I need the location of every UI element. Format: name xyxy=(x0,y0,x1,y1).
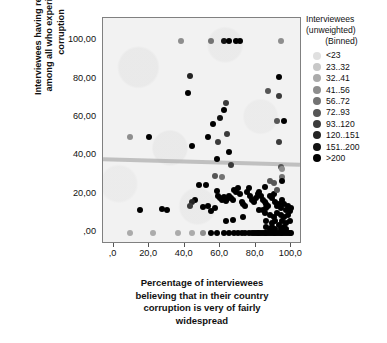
data-point xyxy=(221,107,227,113)
x-tick-label: 60,0 xyxy=(199,249,239,258)
y-tick-label: 100,00 xyxy=(50,35,96,44)
legend-item: 93..120 xyxy=(306,118,387,129)
data-point xyxy=(230,217,236,223)
legend-item-label: 32..41 xyxy=(326,74,350,83)
x-tick-mark xyxy=(113,243,114,247)
data-point xyxy=(189,230,195,236)
x-tick-mark xyxy=(255,243,256,247)
x-tick-mark xyxy=(290,243,291,247)
data-point xyxy=(187,203,193,209)
legend-item-label: <23 xyxy=(326,51,341,60)
data-point xyxy=(150,230,156,236)
legend-item: 72..93 xyxy=(306,107,387,118)
legend-swatch-dot-icon xyxy=(313,143,321,151)
data-point xyxy=(214,230,220,236)
legend-swatch-dot-icon xyxy=(313,52,321,60)
x-tick-label: 20,0 xyxy=(128,249,168,258)
data-point xyxy=(223,218,229,224)
data-point xyxy=(137,207,143,213)
data-point xyxy=(217,115,223,121)
legend-swatch-dot-icon xyxy=(313,120,321,128)
legend-item-label: 56..72 xyxy=(326,97,350,106)
legend-title-line-2: (unweighted) xyxy=(306,25,387,36)
x-tick-label: 40,0 xyxy=(164,249,204,258)
legend-item-label: >200 xyxy=(326,154,345,163)
data-point xyxy=(287,218,293,224)
data-point xyxy=(237,191,243,197)
legend-swatch-dot-icon xyxy=(313,74,321,82)
data-point xyxy=(214,156,220,162)
y-tick-label: ,00 xyxy=(50,227,96,236)
data-point xyxy=(185,90,191,96)
legend-item: <23 xyxy=(306,50,387,61)
data-point xyxy=(276,93,282,99)
data-point xyxy=(200,230,206,236)
y-axis-title-line-1: Interviewees having reported xyxy=(33,0,45,95)
legend-item: 32..41 xyxy=(306,73,387,84)
legend-item: 151..200 xyxy=(306,141,387,152)
legend-item: 120..151 xyxy=(306,130,387,141)
data-point xyxy=(237,38,243,44)
legend-item-label: 41..56 xyxy=(326,86,350,95)
legend-title-line-1: Interviewees xyxy=(306,14,387,25)
x-axis-title-line-3: corruption is very of fairly xyxy=(62,302,342,315)
legend-item: 56..72 xyxy=(306,96,387,107)
scatter-plot-figure: Interviewees having reported among all w… xyxy=(0,0,387,343)
data-point xyxy=(256,207,262,213)
data-point xyxy=(175,230,181,236)
data-point xyxy=(288,205,294,211)
legend-swatch-dot-icon xyxy=(313,109,321,117)
legend-item-label: 72..93 xyxy=(326,108,350,117)
y-tick-label: 20,00 xyxy=(50,189,96,198)
legend: Interviewees (unweighted) (Binned) <2323… xyxy=(306,14,387,164)
x-axis-title-line-2: believing that in their country xyxy=(62,290,342,303)
data-point xyxy=(223,100,229,106)
x-axis-title-line-1: Percentage of interviewees xyxy=(62,277,342,290)
x-tick-mark xyxy=(148,243,149,247)
x-tick-label: 80,0 xyxy=(235,249,275,258)
y-tick-label: 60,00 xyxy=(50,112,96,121)
legend-swatch-dot-icon xyxy=(313,131,321,139)
legend-title: Interviewees (unweighted) (Binned) xyxy=(306,14,387,47)
y-tick-label: 40,00 xyxy=(50,150,96,159)
data-point xyxy=(219,174,225,180)
x-axis-title: Percentage of interviewees believing tha… xyxy=(62,277,342,327)
data-point xyxy=(262,184,268,190)
data-point xyxy=(288,230,294,236)
plot-area xyxy=(102,17,301,243)
data-point xyxy=(212,173,218,179)
data-point xyxy=(205,134,211,140)
legend-item: >200 xyxy=(306,153,387,164)
legend-swatch-dot-icon xyxy=(313,97,321,105)
data-point xyxy=(127,134,133,140)
legend-item: 41..56 xyxy=(306,84,387,95)
legend-swatch-dot-icon xyxy=(313,86,321,94)
legend-item-label: 120..151 xyxy=(326,131,359,140)
legend-swatch-dot-icon xyxy=(313,63,321,71)
data-point xyxy=(265,88,271,94)
legend-item-label: 151..200 xyxy=(326,143,359,152)
data-point xyxy=(269,224,275,230)
data-point xyxy=(212,205,218,211)
data-point xyxy=(278,38,284,44)
x-axis-title-line-4: widespread xyxy=(62,315,342,328)
legend-swatch-dot-icon xyxy=(313,154,321,162)
data-point xyxy=(281,224,287,230)
x-tick-label: ,0 xyxy=(93,249,133,258)
data-point xyxy=(127,230,133,236)
legend-item-label: 23..32 xyxy=(326,63,350,72)
data-point xyxy=(146,134,152,140)
x-tick-mark xyxy=(219,243,220,247)
data-point xyxy=(203,182,209,188)
x-tick-label: 100,0 xyxy=(270,249,310,258)
data-point xyxy=(242,203,248,209)
legend-item: 23..32 xyxy=(306,61,387,72)
legend-title-line-3: (Binned) xyxy=(306,36,387,47)
x-tick-mark xyxy=(184,243,185,247)
y-tick-label: 80,00 xyxy=(50,74,96,83)
data-point xyxy=(271,180,277,186)
data-point xyxy=(196,182,202,188)
data-point xyxy=(230,197,236,203)
legend-items: <2323..3232..4141..5656..7272..9393..120… xyxy=(306,50,387,164)
legend-item-label: 93..120 xyxy=(326,120,355,129)
